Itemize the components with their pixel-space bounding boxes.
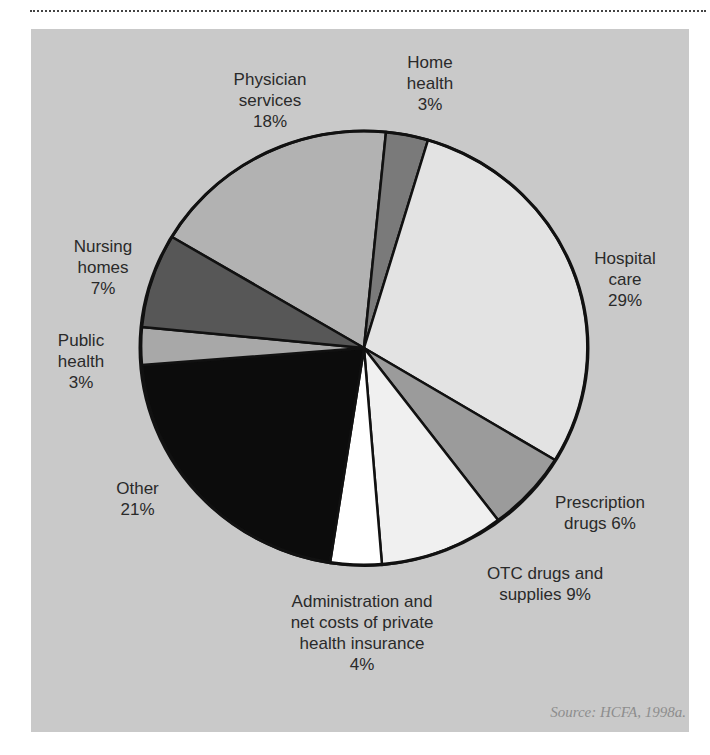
label-value: 18% — [200, 111, 340, 132]
label-line: Administration and — [262, 591, 462, 612]
label-line: Home — [385, 52, 475, 73]
label-other: Other 21% — [100, 478, 175, 520]
label-value: 29% — [575, 290, 675, 311]
label-line: Physician — [200, 69, 340, 90]
label-value: 7% — [58, 278, 148, 299]
label-value: 3% — [385, 94, 475, 115]
slice-other — [142, 348, 364, 563]
label-hospital-care: Hospital care 29% — [575, 248, 675, 311]
label-line: Other — [100, 478, 175, 499]
label-line: care — [575, 269, 675, 290]
label-line: Nursing — [58, 236, 148, 257]
label-value: 4% — [262, 654, 462, 675]
label-public-health: Public health 3% — [46, 330, 116, 393]
label-value: 3% — [46, 372, 116, 393]
label-line: Prescription — [535, 492, 665, 513]
label-nursing-homes: Nursing homes 7% — [58, 236, 148, 299]
label-value: supplies 9% — [470, 584, 620, 605]
label-line: health insurance — [262, 633, 462, 654]
label-line: Hospital — [575, 248, 675, 269]
label-line: OTC drugs and — [470, 563, 620, 584]
label-value: 21% — [100, 499, 175, 520]
label-line: health — [46, 351, 116, 372]
label-line: homes — [58, 257, 148, 278]
label-home-health: Home health 3% — [385, 52, 475, 115]
label-line: net costs of private — [262, 612, 462, 633]
label-line: Public — [46, 330, 116, 351]
source-note: Source: HCFA, 1998a. — [550, 704, 686, 721]
label-prescription-drugs: Prescription drugs 6% — [535, 492, 665, 534]
label-line: services — [200, 90, 340, 111]
label-otc-drugs: OTC drugs and supplies 9% — [470, 563, 620, 605]
label-physician-services: Physician services 18% — [200, 69, 340, 132]
label-value: drugs 6% — [535, 513, 665, 534]
label-line: health — [385, 73, 475, 94]
label-administration: Administration and net costs of private … — [262, 591, 462, 675]
